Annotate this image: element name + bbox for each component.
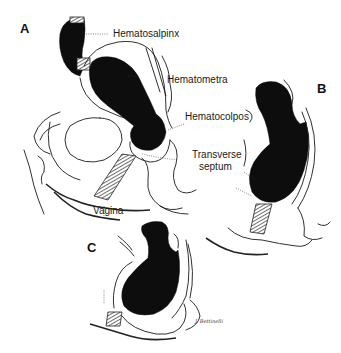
medical-illustration: A B C Hematosalpinx Hematometra Hematoco… (0, 0, 341, 353)
panel-a-drawing (24, 17, 196, 220)
panel-letter-b: B (317, 82, 326, 95)
label-hematocolpos: Hematocolpos (185, 112, 249, 122)
artist-signature: J. Bettinelli (195, 318, 223, 324)
label-vagina: Vagina (93, 206, 123, 216)
hematocolpos-c-shape (122, 222, 180, 316)
panel-c-drawing (90, 222, 200, 340)
label-hematometra: Hematometra (167, 75, 228, 85)
anatomy-drawing (0, 0, 341, 353)
panel-letter-c: C (87, 241, 96, 254)
hematometra-b-shape (249, 82, 308, 203)
label-hematosalpinx: Hematosalpinx (113, 29, 179, 39)
label-transverse-septum-line2: septum (199, 162, 232, 172)
panel-letter-a: A (20, 22, 29, 35)
label-transverse-septum-line1: Transverse (192, 150, 242, 160)
hematometra-shape (89, 57, 166, 151)
